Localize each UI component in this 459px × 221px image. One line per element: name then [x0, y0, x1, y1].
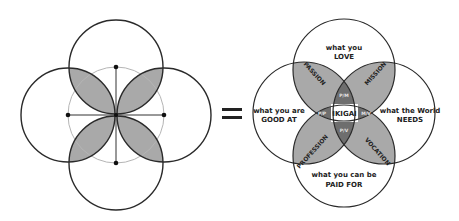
paid-for-label-line1: what you can be	[312, 171, 377, 179]
center-dot-main	[114, 113, 118, 117]
right-diagram-ikigai: what you LOVE what you are GOOD AT what …	[253, 19, 440, 207]
paid-for-label-line2: PAID FOR	[326, 181, 363, 189]
pp-label: P/P	[318, 111, 327, 116]
equals-sign	[222, 108, 242, 119]
good-at-label-line1: what you are	[253, 107, 305, 115]
love-label-line1: what you	[326, 44, 362, 52]
world-needs-label-line1: what the World	[380, 107, 441, 115]
ikigai-figure: what you LOVE what you are GOOD AT what …	[0, 0, 459, 221]
pm-label: P/M	[339, 93, 349, 98]
ikigai-label: IKIGAI	[332, 110, 356, 118]
love-label-line2: LOVE	[334, 53, 354, 61]
center-dot-top	[114, 65, 119, 70]
left-diagram	[21, 20, 211, 210]
center-dot-left	[66, 113, 71, 118]
center-dot-right	[162, 113, 167, 118]
mv-label: M/V	[361, 111, 371, 116]
center-dot-bottom	[114, 161, 119, 166]
good-at-label-line2: GOOD AT	[261, 116, 297, 124]
world-needs-label-line2: NEEDS	[397, 116, 423, 124]
pv-label: P/V	[340, 128, 349, 133]
